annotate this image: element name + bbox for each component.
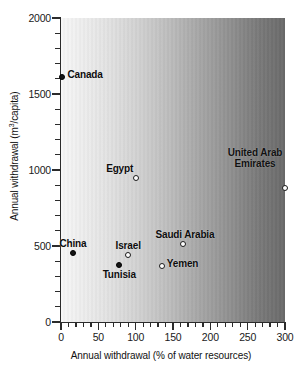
y-axis-tick-label: 2000 <box>11 13 51 23</box>
y-axis-minor-tick <box>55 33 61 34</box>
y-axis-minor-tick <box>55 276 61 277</box>
y-axis-minor-tick <box>55 261 61 262</box>
x-axis-major-tick <box>210 322 211 330</box>
x-axis-tick-label: 0 <box>41 332 81 342</box>
data-point-label: Canada <box>67 70 102 81</box>
x-axis-major-tick <box>284 322 285 330</box>
x-axis-minor-tick <box>143 322 144 327</box>
x-axis-minor-tick <box>217 322 218 327</box>
x-axis-minor-tick <box>180 322 181 327</box>
data-point-label: Saudi Arabia <box>155 230 211 241</box>
x-axis-tick-label: 250 <box>228 332 268 342</box>
x-axis-minor-tick <box>128 322 129 327</box>
y-axis-minor-tick <box>55 230 61 231</box>
x-axis-tick-label: 200 <box>190 332 230 342</box>
x-axis-minor-tick <box>269 322 270 327</box>
y-axis-title: Annual withdrawal (m3/capita) <box>8 56 20 256</box>
y-axis-title-suffix: /capita) <box>9 91 20 123</box>
x-axis-minor-tick <box>120 322 121 327</box>
x-axis-minor-tick <box>165 322 166 327</box>
y-axis-major-tick <box>52 17 61 18</box>
y-axis-minor-tick <box>55 200 61 201</box>
x-axis-major-tick <box>135 322 136 330</box>
y-axis-minor-tick <box>55 48 61 49</box>
data-point-label: China <box>45 239 101 250</box>
y-axis-minor-tick <box>55 109 61 110</box>
x-axis-tick-label: 150 <box>153 332 193 342</box>
data-point-label: Israel <box>100 241 156 252</box>
x-axis-minor-tick <box>68 322 69 327</box>
y-axis-minor-tick <box>55 139 61 140</box>
data-point-label: United Arab Emirates <box>227 148 283 169</box>
y-axis-major-tick <box>52 169 61 170</box>
y-axis-tick-label: 0 <box>11 317 51 327</box>
y-axis-title-superscript: 3 <box>8 123 15 127</box>
x-axis-tick-label: 100 <box>116 332 156 342</box>
data-point-label: Yemen <box>167 259 199 270</box>
y-axis-major-tick <box>52 93 61 94</box>
y-axis-minor-tick <box>55 63 61 64</box>
x-axis-tick-label: 50 <box>78 332 118 342</box>
y-axis-minor-tick <box>55 306 61 307</box>
data-point-label: Egypt <box>102 164 138 175</box>
data-point-label: Tunisia <box>91 270 147 281</box>
x-axis-minor-tick <box>113 322 114 327</box>
x-axis-minor-tick <box>255 322 256 327</box>
data-point-marker <box>159 263 165 269</box>
x-axis-minor-tick <box>202 322 203 327</box>
x-axis-minor-tick <box>277 322 278 327</box>
x-axis-minor-tick <box>83 322 84 327</box>
x-axis-minor-tick <box>187 322 188 327</box>
y-axis-minor-tick <box>55 215 61 216</box>
x-axis-minor-tick <box>262 322 263 327</box>
x-axis-minor-tick <box>157 322 158 327</box>
x-axis-minor-tick <box>150 322 151 327</box>
y-axis-minor-tick <box>55 185 61 186</box>
data-point-marker <box>282 185 288 191</box>
x-axis-minor-tick <box>195 322 196 327</box>
x-axis-minor-tick <box>240 322 241 327</box>
y-axis-minor-tick <box>55 291 61 292</box>
x-axis-minor-tick <box>75 322 76 327</box>
x-axis-minor-tick <box>90 322 91 327</box>
x-axis-minor-tick <box>105 322 106 327</box>
x-axis-major-tick <box>60 322 61 330</box>
y-axis-minor-tick <box>55 154 61 155</box>
x-axis-major-tick <box>172 322 173 330</box>
x-axis-title: Annual withdrawal (% of water resources) <box>36 350 286 361</box>
data-point-marker <box>70 250 76 256</box>
x-axis-minor-tick <box>232 322 233 327</box>
scatter-chart: 0500100015002000050100150200250300 Canad… <box>0 0 306 373</box>
x-axis-tick-label: 300 <box>265 332 305 342</box>
x-axis-major-tick <box>247 322 248 330</box>
y-axis-title-prefix: Annual withdrawal (m <box>9 127 20 221</box>
y-axis-minor-tick <box>55 124 61 125</box>
x-axis-major-tick <box>98 322 99 330</box>
x-axis-minor-tick <box>225 322 226 327</box>
